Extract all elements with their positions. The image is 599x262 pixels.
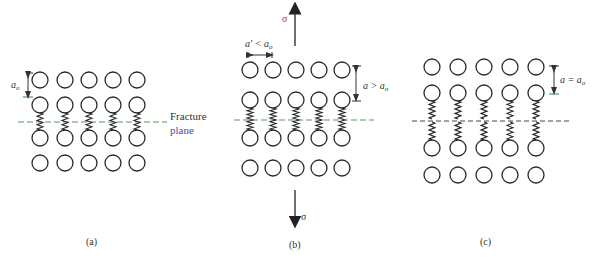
atom <box>265 160 281 176</box>
atom <box>502 59 518 75</box>
atom <box>265 62 281 78</box>
atom <box>242 62 258 78</box>
dimension-label-c: a = ao <box>560 74 586 87</box>
broken-bond-upper <box>507 101 513 119</box>
atom <box>32 97 48 113</box>
sigma-top: σ <box>282 13 288 24</box>
atom <box>242 160 258 176</box>
caption-a: (a) <box>86 236 97 248</box>
fracture-plane-label-2: plane <box>170 124 194 136</box>
atom <box>288 92 304 108</box>
atom <box>450 140 466 156</box>
atom <box>476 59 492 75</box>
broken-bond-lower <box>455 122 461 140</box>
broken-bond-lower <box>533 122 539 140</box>
sigma-bottom: σ <box>301 211 307 222</box>
atom <box>57 72 73 88</box>
dimension-label-a0: ao <box>11 79 20 92</box>
atom <box>311 130 327 146</box>
fracture-diagram: ao Fracture plane (a) σ σ a′ < ao a > ao… <box>0 0 599 262</box>
bond-spring <box>339 108 345 130</box>
atom <box>450 85 466 101</box>
atom <box>334 62 350 78</box>
dimension-label-b: a > ao <box>363 80 389 93</box>
fracture-plane-label: Fracture <box>170 110 207 122</box>
atom <box>129 130 145 146</box>
broken-bond-lower <box>507 122 513 140</box>
atom <box>424 140 440 156</box>
atom <box>105 97 121 113</box>
atom <box>32 72 48 88</box>
caption-b: (b) <box>289 239 301 251</box>
atom <box>81 155 97 171</box>
bond-spring <box>270 108 276 130</box>
panel-b-dimension: a > ao <box>352 66 389 101</box>
atom <box>424 167 440 183</box>
atom <box>288 130 304 146</box>
atom <box>528 167 544 183</box>
atom <box>450 59 466 75</box>
atom <box>81 130 97 146</box>
broken-bond-upper <box>455 101 461 119</box>
broken-bond-lower <box>429 122 435 140</box>
atom <box>288 160 304 176</box>
atom <box>334 92 350 108</box>
atom <box>311 160 327 176</box>
atom <box>502 167 518 183</box>
broken-bond-upper <box>533 101 539 119</box>
atom <box>424 85 440 101</box>
atom <box>105 72 121 88</box>
panel-c <box>412 59 572 183</box>
broken-bond-upper <box>481 101 487 119</box>
atom <box>57 130 73 146</box>
lateral-spacing-dimension: a′ < ao <box>245 38 273 58</box>
atom <box>476 85 492 101</box>
caption-c: (c) <box>480 236 491 248</box>
atom <box>311 92 327 108</box>
panel-a <box>18 72 167 171</box>
atom <box>502 85 518 101</box>
atom <box>129 72 145 88</box>
atom <box>424 59 440 75</box>
atom <box>265 92 281 108</box>
atom <box>32 155 48 171</box>
atom <box>57 97 73 113</box>
broken-bond-lower <box>481 122 487 140</box>
atom <box>105 130 121 146</box>
atom <box>311 62 327 78</box>
panel-a-dimension: ao <box>11 73 33 97</box>
atom <box>81 72 97 88</box>
bond-spring <box>316 108 322 130</box>
atom <box>502 140 518 156</box>
atom <box>450 167 466 183</box>
atom <box>265 130 281 146</box>
panel-c-dimension: a = ao <box>549 66 586 94</box>
atom <box>528 59 544 75</box>
atom <box>528 140 544 156</box>
atom <box>81 97 97 113</box>
panel-b <box>234 62 374 176</box>
atom <box>242 130 258 146</box>
atom <box>528 85 544 101</box>
broken-bond-upper <box>429 101 435 119</box>
atom <box>32 130 48 146</box>
atom <box>288 62 304 78</box>
bond-spring <box>293 108 299 130</box>
atom <box>242 92 258 108</box>
atom <box>105 155 121 171</box>
spacing-label: a′ < ao <box>245 38 273 51</box>
atom <box>57 155 73 171</box>
bond-spring <box>247 108 253 130</box>
atom <box>334 130 350 146</box>
atom <box>129 97 145 113</box>
atom <box>476 140 492 156</box>
atom <box>129 155 145 171</box>
atom <box>334 160 350 176</box>
atom <box>476 167 492 183</box>
